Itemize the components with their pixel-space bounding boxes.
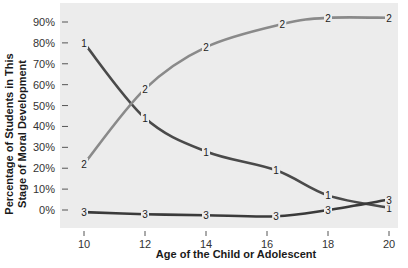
y-tick-label: 0% (39, 204, 55, 216)
series-1-point-label: 1 (81, 38, 87, 49)
series-1-point-label: 1 (273, 165, 279, 176)
y-tick-label: 70% (33, 58, 55, 70)
series-2-point-label: 2 (81, 159, 87, 170)
series-2-point-label: 2 (142, 84, 148, 95)
series-3-point-label: 3 (325, 205, 331, 216)
y-tick-label: 90% (33, 16, 55, 28)
series-3-point-label: 3 (81, 207, 87, 218)
y-tick-label: 10% (33, 183, 55, 195)
series-2-point-label: 2 (279, 19, 285, 30)
x-tick-label: 18 (322, 238, 334, 250)
series-1-point-label: 1 (142, 113, 148, 124)
plot-background (60, 3, 398, 228)
y-tick-label: 80% (33, 37, 55, 49)
y-tick-label: 50% (33, 100, 55, 112)
series-3-point-label: 3 (273, 211, 279, 222)
x-tick-label: 12 (139, 238, 151, 250)
line-chart: 0%10%20%30%40%50%60%70%80%90% 1012141618… (0, 0, 408, 268)
x-tick-label: 10 (78, 238, 90, 250)
y-tick-label: 30% (33, 141, 55, 153)
y-tick-label: 60% (33, 79, 55, 91)
y-tick-label: 20% (33, 162, 55, 174)
y-axis-title-line1: Percentage of Students in This (3, 53, 15, 214)
series-1-point-label: 1 (325, 190, 331, 201)
x-tick-label: 20 (383, 238, 395, 250)
series-2-point-label: 2 (325, 13, 331, 24)
series-2-point-label: 2 (203, 42, 209, 53)
y-axis-title-line2: Stage of Moral Development (16, 60, 28, 208)
series-3-point-label: 3 (142, 209, 148, 220)
series-2-point-label: 2 (386, 13, 392, 24)
series-3-point-label: 3 (203, 210, 209, 221)
y-tick-label: 40% (33, 120, 55, 132)
series-1-point-label: 1 (203, 147, 209, 158)
series-3-point-label: 3 (386, 195, 392, 206)
x-axis-title: Age of the Child or Adolescent (156, 248, 317, 260)
